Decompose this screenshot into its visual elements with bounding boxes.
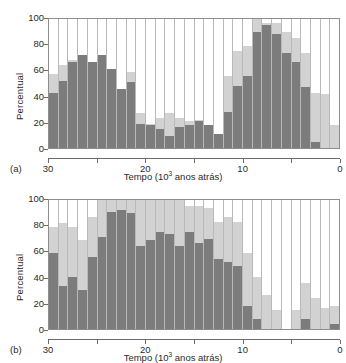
bar-segment-dark bbox=[146, 125, 155, 148]
x-tick-label: 0 bbox=[328, 163, 346, 174]
bar-segment-dark bbox=[156, 232, 165, 329]
panel-tag-a: (a) bbox=[10, 163, 22, 174]
bar-segment-light bbox=[146, 200, 155, 240]
bar-segment-light bbox=[59, 223, 68, 286]
bar-segment-light bbox=[204, 208, 213, 239]
bar-segment-dark bbox=[253, 32, 262, 148]
bar-column bbox=[214, 19, 224, 148]
bar-column bbox=[175, 19, 185, 148]
y-tick-label: 40 bbox=[33, 272, 44, 283]
bar-column bbox=[195, 19, 205, 148]
bar-column bbox=[301, 19, 311, 148]
bar-segment-light bbox=[127, 72, 136, 82]
bar-segment-light bbox=[292, 38, 301, 61]
bar-segment-light bbox=[233, 222, 242, 266]
bar-column bbox=[330, 19, 339, 148]
plot-area-a bbox=[48, 18, 340, 149]
bar-column bbox=[330, 200, 339, 329]
bar-column bbox=[68, 200, 78, 329]
bar-segment-dark bbox=[98, 237, 107, 329]
bar-segment-light bbox=[243, 46, 252, 76]
bar-segment-light bbox=[59, 65, 68, 80]
y-tick-label: 40 bbox=[33, 91, 44, 102]
bar-segment-dark bbox=[185, 232, 194, 329]
bar-segment-light bbox=[165, 200, 174, 234]
bar-column bbox=[311, 19, 321, 148]
bar-segment-light bbox=[98, 200, 107, 237]
bar-segment-light bbox=[107, 200, 116, 212]
bar-column bbox=[88, 19, 98, 148]
bar-column bbox=[243, 200, 253, 329]
bar-column bbox=[175, 200, 185, 329]
bar-segment-dark bbox=[185, 125, 194, 148]
bar-column bbox=[136, 19, 146, 148]
bar-segment-light bbox=[272, 23, 281, 35]
y-tick-label: 20 bbox=[33, 117, 44, 128]
bar-series-b bbox=[49, 200, 339, 329]
bar-column bbox=[214, 200, 224, 329]
bar-segment-dark bbox=[107, 69, 116, 148]
x-axis-label-suffix-b: anos atrás) bbox=[172, 352, 222, 363]
bar-segment-dark bbox=[136, 246, 145, 329]
x-tick-label: 30 bbox=[36, 344, 60, 355]
bar-column bbox=[107, 200, 117, 329]
bar-segment-light bbox=[272, 310, 281, 329]
bar-column bbox=[78, 200, 88, 329]
bar-segment-dark bbox=[59, 286, 68, 329]
bar-segment-dark bbox=[165, 136, 174, 148]
bar-column bbox=[165, 200, 175, 329]
bar-column bbox=[224, 200, 234, 329]
bar-segment-dark bbox=[88, 62, 97, 148]
bar-segment-dark bbox=[175, 246, 184, 329]
x-tick-mark bbox=[291, 159, 292, 163]
bar-segment-light bbox=[78, 240, 87, 290]
bar-segment-light bbox=[253, 277, 262, 318]
bar-column bbox=[243, 19, 253, 148]
y-tick-label: 80 bbox=[33, 38, 44, 49]
bar-column bbox=[107, 19, 117, 148]
bar-segment-light bbox=[175, 200, 184, 246]
bar-segment-dark bbox=[127, 82, 136, 148]
bar-segment-light bbox=[253, 19, 262, 32]
bar-segment-light bbox=[156, 118, 165, 128]
bar-segment-light bbox=[165, 113, 174, 136]
x-tick-label: 10 bbox=[231, 344, 255, 355]
bar-column bbox=[165, 19, 175, 148]
bar-segment-dark bbox=[195, 121, 204, 148]
bar-segment-light bbox=[49, 74, 58, 92]
bar-segment-light bbox=[311, 93, 320, 142]
bar-column bbox=[301, 200, 311, 329]
bar-segment-dark bbox=[282, 53, 291, 148]
bar-column bbox=[272, 200, 282, 329]
y-tick-label: 60 bbox=[33, 245, 44, 256]
bar-segment-dark bbox=[204, 239, 213, 329]
bar-segment-light bbox=[311, 298, 320, 329]
bar-column bbox=[311, 200, 321, 329]
bar-segment-dark bbox=[68, 277, 77, 329]
bar-column bbox=[233, 19, 243, 148]
y-tick-label: 100 bbox=[28, 193, 44, 204]
chart-panel-b: Percentual 020406080100 Tempo (103 anos … bbox=[0, 181, 346, 361]
bar-column bbox=[321, 19, 331, 148]
bar-segment-dark bbox=[301, 87, 310, 148]
bar-segment-dark bbox=[175, 127, 184, 148]
bar-segment-dark bbox=[243, 76, 252, 148]
bar-segment-dark bbox=[311, 142, 320, 148]
bar-column bbox=[233, 200, 243, 329]
bar-column bbox=[195, 200, 205, 329]
bar-column bbox=[321, 200, 331, 329]
bar-column bbox=[88, 200, 98, 329]
bar-column bbox=[156, 19, 166, 148]
bar-column bbox=[253, 200, 263, 329]
bar-column bbox=[127, 19, 137, 148]
bar-column bbox=[68, 19, 78, 148]
bar-column bbox=[262, 200, 272, 329]
bar-column bbox=[185, 19, 195, 148]
y-tick-label: 100 bbox=[28, 12, 44, 23]
bar-segment-light bbox=[136, 200, 145, 246]
bar-segment-dark bbox=[98, 55, 107, 148]
bar-segment-light bbox=[224, 76, 233, 112]
bar-column bbox=[98, 19, 108, 148]
bar-segment-dark bbox=[68, 62, 77, 148]
bar-segment-light bbox=[156, 200, 165, 232]
